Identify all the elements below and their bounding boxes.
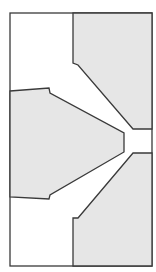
cross-section-diagram	[0, 0, 156, 272]
diagram-canvas	[0, 0, 156, 272]
